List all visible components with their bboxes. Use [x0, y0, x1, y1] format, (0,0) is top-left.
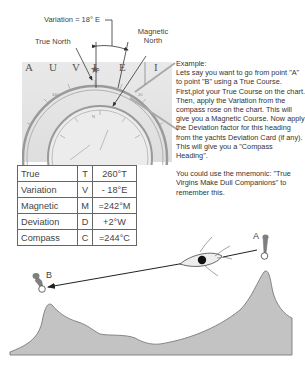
variation-bracket: [96, 20, 128, 88]
row-name: Magnetic: [18, 198, 78, 214]
row-abbr: D: [78, 214, 93, 230]
coastline-landmass: [10, 271, 292, 355]
row-name: Compass: [18, 230, 78, 246]
point-a-label: A: [253, 232, 259, 241]
buoy-a-icon: [261, 235, 268, 260]
row-abbr: M: [78, 198, 93, 214]
table-row: Magnetic M =242°M: [18, 198, 137, 214]
row-name: Deviation: [18, 214, 78, 230]
row-abbr: C: [78, 230, 93, 246]
mnemonic-text: You could use the mnemonic: "True Virgin…: [176, 169, 305, 197]
magnetic-north-line2: North: [133, 36, 173, 45]
chart-letter: V: [72, 61, 80, 73]
table-row: True T 260°T: [18, 166, 137, 182]
table-row: Variation V - 18°E: [18, 182, 137, 198]
example-text-block: Example: Lets say you want to go from po…: [176, 59, 305, 197]
variation-label: Variation = 18° E: [44, 15, 100, 24]
chart-letter: L: [93, 61, 100, 73]
chart-letter: A: [25, 61, 33, 73]
row-name: True: [18, 166, 78, 182]
table-row: Compass C =244°C: [18, 230, 137, 246]
magnetic-north-pointer: [113, 56, 146, 106]
magnetic-north-label: Magnetic North: [133, 27, 173, 45]
buoy-b-icon: [33, 273, 46, 292]
row-abbr: T: [78, 166, 93, 182]
svg-text:N: N: [92, 114, 95, 119]
row-value: =244°C: [93, 230, 137, 246]
row-abbr: V: [78, 182, 93, 198]
chart-letter: E: [119, 61, 126, 73]
row-value: 260°T: [93, 166, 137, 182]
example-heading: Example:: [176, 59, 305, 68]
row-value: =242°M: [93, 198, 137, 214]
svg-text:20: 20: [138, 92, 143, 97]
magnetic-north-line1: Magnetic: [133, 27, 173, 36]
row-value: +2°W: [93, 214, 137, 230]
row-value: - 18°E: [93, 182, 137, 198]
true-north-label: True North: [35, 37, 71, 46]
chart-letter: U: [49, 61, 57, 73]
point-b-label: B: [46, 271, 52, 280]
svg-text:340: 340: [52, 92, 59, 97]
chart-letter: I: [154, 61, 158, 73]
compass-calculation-table: True T 260°T Variation V - 18°E Magnetic…: [17, 165, 137, 246]
example-body: Lets say you want to go from point "A" t…: [176, 68, 305, 160]
table-row: Deviation D +2°W: [18, 214, 137, 230]
course-line: [48, 263, 185, 287]
row-name: Variation: [18, 182, 78, 198]
